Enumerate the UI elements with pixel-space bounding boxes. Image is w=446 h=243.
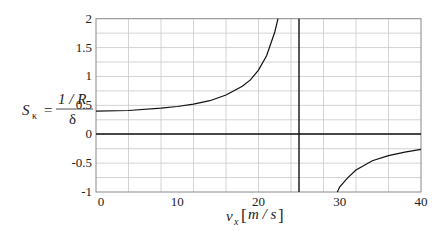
x-label-unit: m / s xyxy=(248,206,277,222)
x-label-bracket-close: ] xyxy=(278,206,284,225)
series-high-speed-curve xyxy=(337,149,421,192)
y-tick-label: 1.5 xyxy=(76,40,92,55)
y-label-main: S xyxy=(22,102,30,118)
y-label-numerator: 1 / R xyxy=(58,91,86,107)
y-label-denominator: δ xyxy=(69,111,76,127)
x-label-bracket-open: [ xyxy=(241,206,247,225)
x-tick-label: 0 xyxy=(98,194,105,209)
y-tick-label: 2 xyxy=(86,11,93,26)
x-tick-label: 30 xyxy=(333,194,346,209)
x-tick-label: 40 xyxy=(415,194,428,209)
x-label-sub: x xyxy=(233,216,239,227)
y-tick-label: 1 xyxy=(86,68,93,83)
x-tick-label: 10 xyxy=(171,194,184,209)
x-axis-label: v x [ m / s ] xyxy=(226,206,284,227)
x-label-main: v xyxy=(226,208,233,224)
series-low-speed-curve xyxy=(96,19,278,111)
chart: 21.510.50-0.5-1 010203040 S κ = 1 / R δ … xyxy=(0,0,446,243)
y-tick-label: -0.5 xyxy=(71,155,92,170)
y-tick-label: -1 xyxy=(81,184,92,199)
grid-lines xyxy=(96,19,421,192)
y-axis-label: S κ = 1 / R δ xyxy=(22,91,93,127)
y-label-sub: κ xyxy=(32,110,37,121)
y-label-eq: = xyxy=(44,102,52,118)
y-tick-label: 0 xyxy=(86,126,93,141)
